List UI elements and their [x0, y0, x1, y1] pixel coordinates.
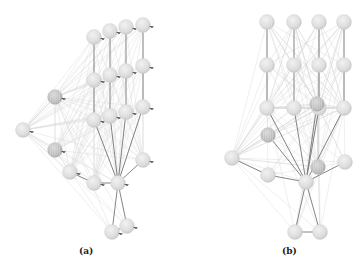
- graph-node: [337, 101, 352, 116]
- graph-node: [87, 30, 106, 45]
- graph-node: [48, 90, 67, 105]
- graph-node: [310, 97, 325, 112]
- graph-node: [311, 160, 326, 175]
- graph-node: [337, 58, 352, 73]
- graph-node: [337, 15, 352, 30]
- graph-node: [103, 24, 122, 39]
- graph-node: [136, 59, 155, 74]
- graph-node: [338, 155, 353, 170]
- panel-a-caption: (a): [79, 246, 93, 256]
- graph-node: [260, 15, 275, 30]
- faint-edges: [232, 22, 345, 232]
- graph-node: [287, 15, 302, 30]
- panel-a-graph: [16, 18, 155, 240]
- graph-node: [120, 219, 139, 234]
- graph-node: [299, 175, 314, 190]
- graph-node: [136, 100, 155, 115]
- graph-node: [260, 58, 275, 73]
- graph-node: [313, 225, 328, 240]
- network-diagram-figure: [0, 0, 361, 268]
- panel-b-caption: (b): [282, 246, 297, 256]
- graph-node: [261, 168, 276, 183]
- graph-node: [260, 101, 275, 116]
- graph-node: [119, 64, 138, 79]
- graph-node: [225, 151, 240, 166]
- panel-b-graph: [225, 15, 353, 240]
- graph-node: [261, 128, 276, 143]
- graph-node: [287, 101, 302, 116]
- graph-node: [63, 165, 82, 180]
- graph-node: [288, 225, 303, 240]
- graph-node: [312, 58, 327, 73]
- graph-node: [312, 15, 327, 30]
- graph-node: [111, 176, 130, 191]
- faint-edges: [23, 25, 143, 232]
- graph-node: [136, 18, 155, 33]
- graph-node: [287, 58, 302, 73]
- graph-node: [136, 153, 155, 168]
